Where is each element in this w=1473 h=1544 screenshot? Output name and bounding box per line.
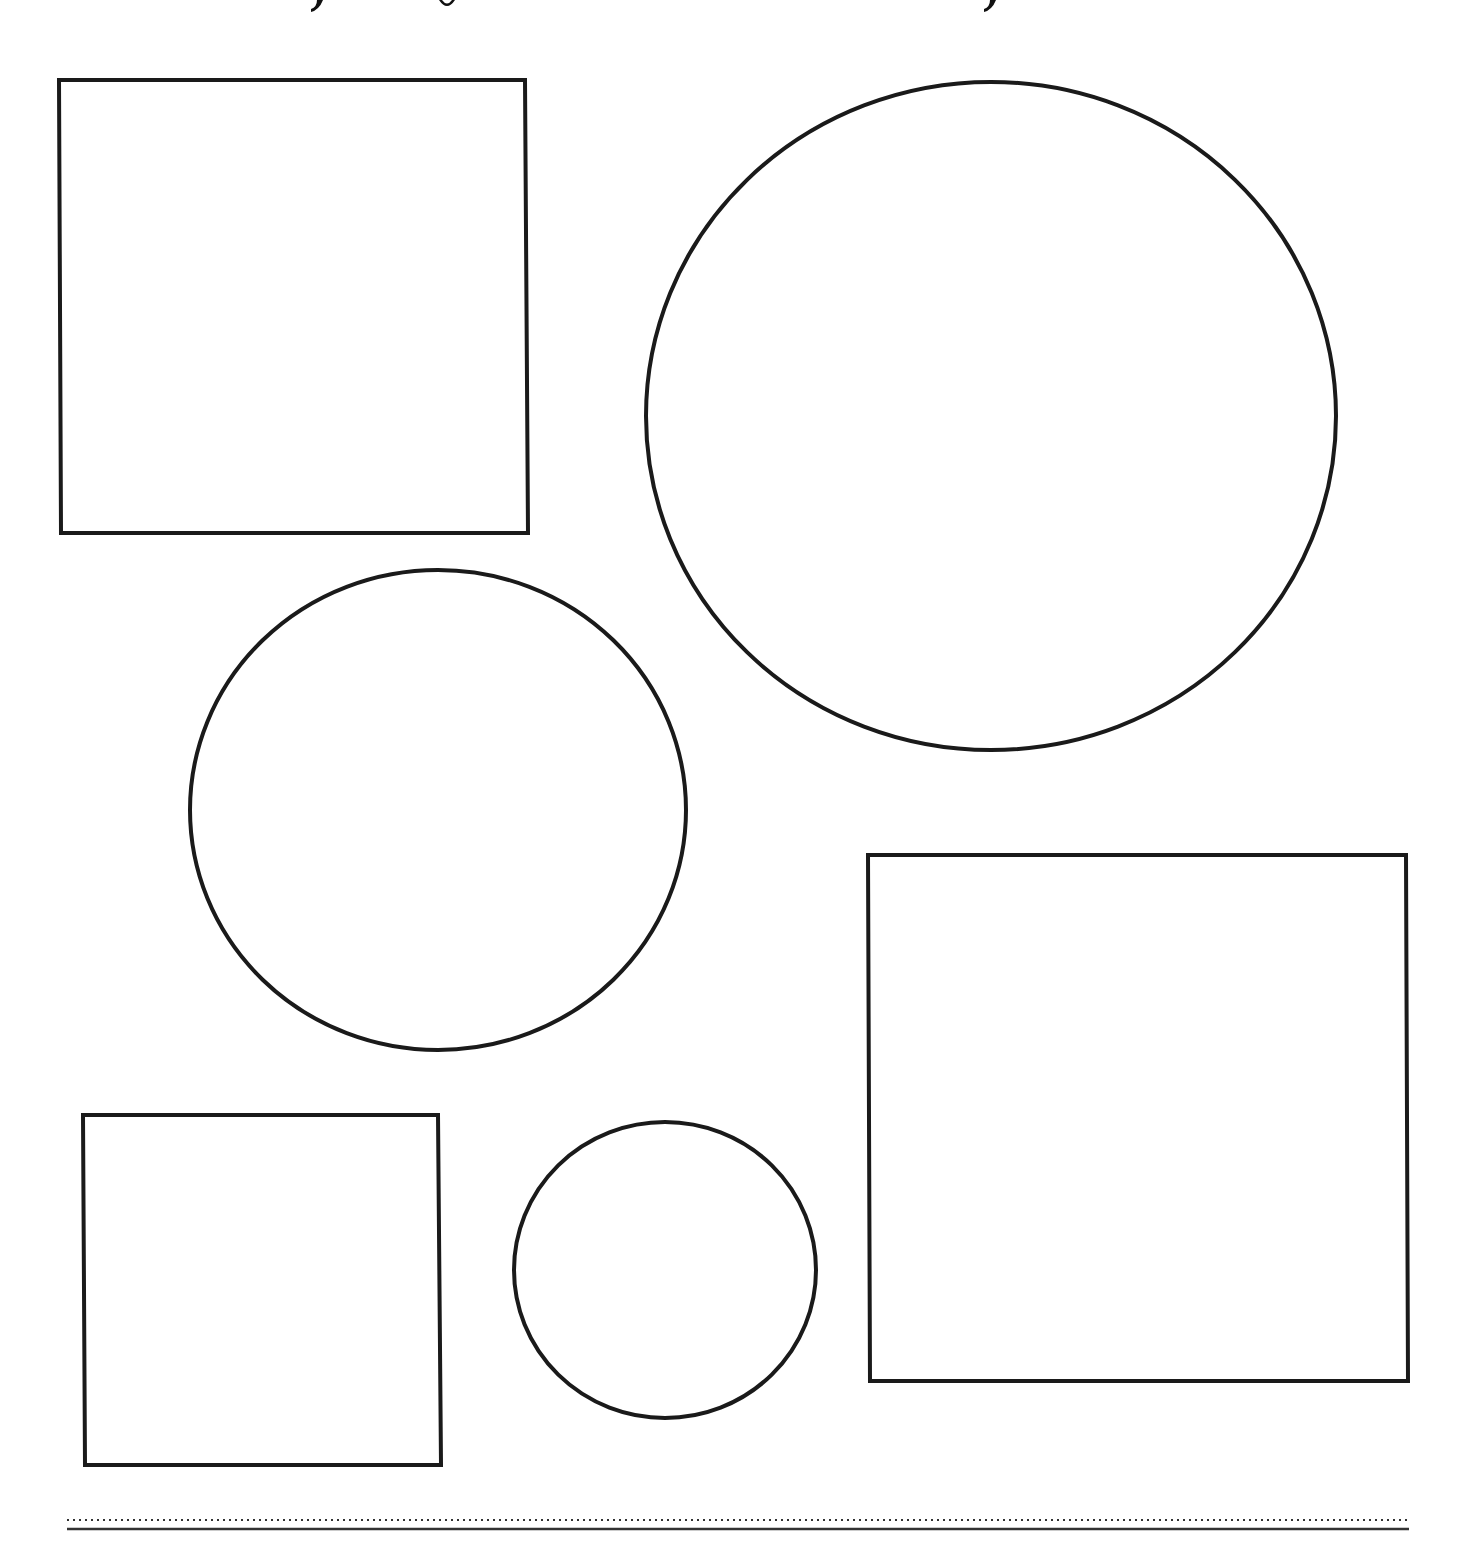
title-fragment: [984, 0, 996, 12]
square-small-bottom-left: [83, 1115, 441, 1465]
title-fragment: [311, 0, 323, 12]
cut-off-title: [311, 0, 996, 12]
square-top-left: [59, 80, 528, 533]
worksheet-canvas: [0, 0, 1473, 1544]
title-fragment: [439, 0, 455, 6]
circle-large-top-right: [646, 82, 1336, 750]
square-large-bottom-right: [868, 855, 1408, 1381]
circle-small-bottom-center: [514, 1122, 816, 1418]
shapes-layer: [59, 80, 1408, 1465]
circle-medium-left: [190, 570, 686, 1050]
